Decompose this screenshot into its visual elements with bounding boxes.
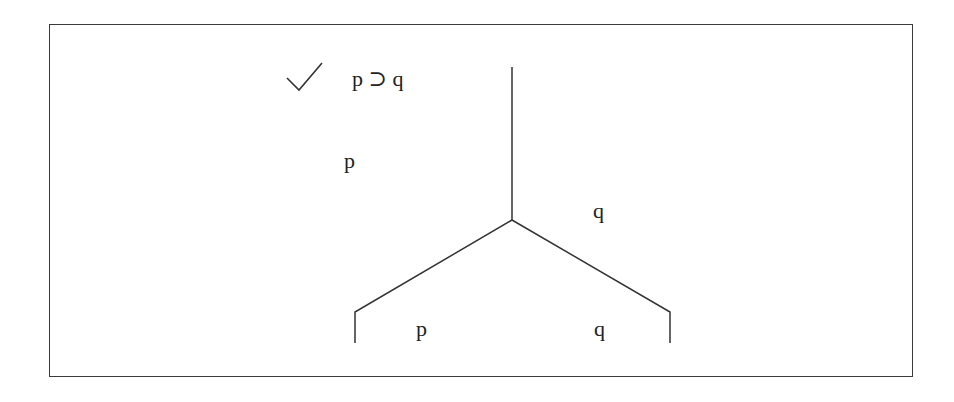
right-branch-leaf: q — [594, 318, 605, 340]
left-branch — [355, 220, 512, 343]
left-branch-leaf: p — [416, 318, 427, 340]
tree-lines — [0, 0, 954, 402]
check-mark-icon — [287, 63, 322, 90]
truth-tree-diagram: p ⊃ q p q p q — [0, 0, 954, 402]
trunk-formula: q — [593, 200, 604, 222]
premise-antecedent: p — [344, 150, 355, 172]
premise-conditional: p ⊃ q — [352, 68, 403, 90]
right-branch — [512, 220, 670, 343]
